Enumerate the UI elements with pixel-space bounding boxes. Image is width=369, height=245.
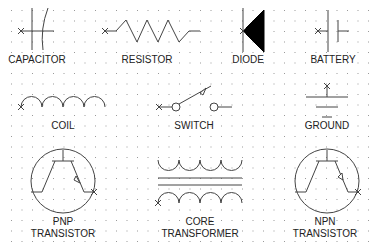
coil-symbol xyxy=(18,97,105,111)
pnp-label-line1: PNP xyxy=(53,216,74,227)
diode-symbol xyxy=(240,8,264,52)
diode-label: DIODE xyxy=(232,54,264,65)
capacitor-label: CAPACITOR xyxy=(8,54,65,65)
capacitor-symbol xyxy=(18,8,54,50)
npn-label-line1: NPN xyxy=(314,216,335,227)
ground-label: GROUND xyxy=(305,120,349,131)
battery-label: BATTERY xyxy=(310,54,355,65)
pnp-transistor-symbol xyxy=(31,149,97,213)
core-transformer-symbol xyxy=(155,160,242,206)
ground-symbol xyxy=(306,83,348,117)
npn-transistor-symbol xyxy=(295,149,361,213)
resistor-label: RESISTOR xyxy=(122,54,173,65)
switch-symbol xyxy=(156,86,232,111)
coil-label: COIL xyxy=(51,120,74,131)
switch-label: SWITCH xyxy=(174,120,213,131)
transformer-label-line1: CORE xyxy=(186,216,215,227)
npn-label-line2: TRANSISTOR xyxy=(293,228,357,239)
pnp-label-line2: TRANSISTOR xyxy=(31,228,95,239)
transformer-label-line2: TRANSFORMER xyxy=(161,228,238,239)
battery-symbol xyxy=(315,10,349,52)
